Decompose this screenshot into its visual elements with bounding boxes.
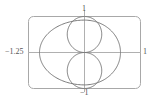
x-tick-left: −1.25	[5, 48, 24, 56]
y-tick-bottom: −1	[80, 89, 89, 97]
y-tick-top: 1	[82, 5, 86, 13]
x-tick-right: 1	[143, 48, 147, 56]
